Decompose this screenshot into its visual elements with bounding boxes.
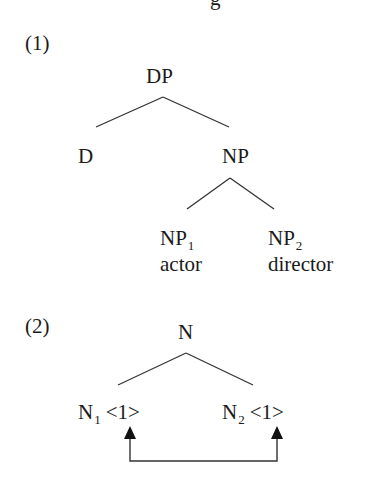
- branch-np-np1: [187, 178, 230, 209]
- example-1-number: (1): [25, 33, 50, 54]
- node-np2-subscript: 2: [296, 238, 303, 253]
- word-director: director: [268, 254, 333, 275]
- branch-dp-d: [96, 97, 163, 127]
- branch-np-np2: [230, 178, 274, 209]
- node-n2: N2<1>: [222, 402, 284, 423]
- node-n1: N1<1>: [78, 402, 140, 423]
- node-np2-label: NP: [268, 226, 295, 250]
- feature-link-line: [130, 436, 277, 461]
- node-n: N: [178, 322, 193, 343]
- arrowhead-up-left-icon: [124, 426, 136, 439]
- word-actor: actor: [160, 254, 202, 275]
- node-n1-label: N: [78, 400, 93, 424]
- node-dp: DP: [146, 66, 173, 87]
- node-n1-subscript: 1: [94, 412, 101, 427]
- node-np2: NP2: [268, 228, 302, 249]
- arrowhead-up-right-icon: [271, 426, 283, 439]
- node-np: NP: [222, 146, 249, 167]
- node-np1-subscript: 1: [188, 238, 195, 253]
- node-n2-subscript: 2: [238, 412, 245, 427]
- node-np1: NP1: [160, 228, 194, 249]
- node-n2-feature: <1>: [250, 400, 284, 424]
- node-n1-feature: <1>: [106, 400, 140, 424]
- node-np1-label: NP: [160, 226, 187, 250]
- branch-n-n1: [118, 353, 186, 385]
- branch-n-n2: [186, 353, 253, 385]
- node-d: D: [78, 146, 93, 167]
- branch-dp-np: [163, 97, 229, 127]
- node-n2-label: N: [222, 400, 237, 424]
- example-2-number: (2): [25, 316, 50, 337]
